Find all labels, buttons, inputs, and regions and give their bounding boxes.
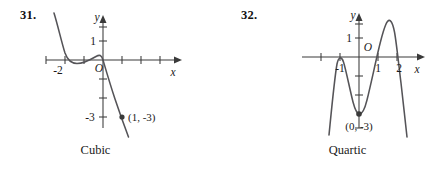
y-tick-label-1: 1 — [346, 32, 352, 44]
x-axis-arrowhead — [417, 54, 425, 61]
caption-quartic: Quartic — [237, 143, 442, 158]
figure-32: 32. -1 1 2 1 — [221, 0, 442, 170]
y-axis-label: y — [93, 11, 100, 24]
point-label-0-neg3: (0, -3) — [345, 120, 373, 133]
x-tick-label-neg2: -2 — [53, 64, 63, 76]
y-tick-label-neg3: -3 — [85, 111, 95, 123]
origin-label: O — [95, 62, 104, 74]
point-marker-0-neg3 — [356, 111, 362, 117]
y-axis-arrowhead — [100, 15, 107, 23]
x-axis-label: x — [413, 63, 420, 75]
x-tick-label-neg1: -1 — [335, 62, 345, 74]
point-marker-1-neg3 — [119, 114, 124, 119]
y-axis-arrowhead — [356, 13, 363, 21]
figure-31: 31. -2 — [0, 0, 221, 170]
x-tick-label-1: 1 — [375, 62, 381, 74]
x-axis-arrowhead — [174, 57, 182, 64]
x-tick-label-2: 2 — [396, 62, 402, 74]
y-tick-label-1: 1 — [90, 35, 96, 47]
origin-label: O — [364, 41, 373, 53]
point-label-1-neg3: (1, -3) — [128, 111, 156, 124]
caption-cubic: Cubic — [0, 143, 206, 158]
x-axis-label: x — [169, 66, 176, 78]
y-axis-label: y — [349, 9, 356, 22]
